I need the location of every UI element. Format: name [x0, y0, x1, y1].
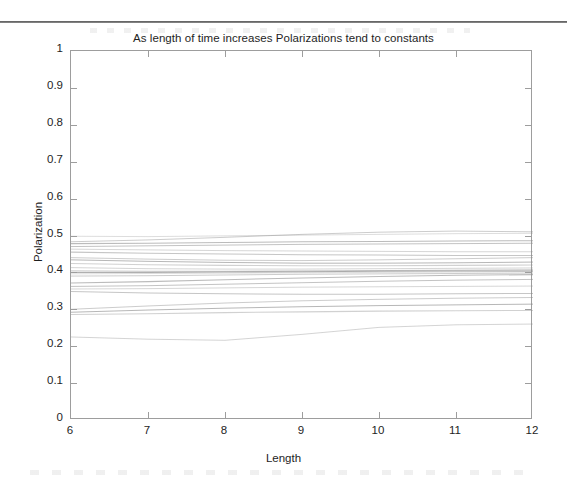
x-tick-top-11: [456, 51, 457, 57]
y-tick-right-0.4: [525, 272, 531, 273]
data-line: [71, 292, 533, 295]
x-tick-bottom-10: [379, 412, 380, 418]
x-tick-label-11: 11: [435, 424, 475, 436]
y-tick-label-0.9: 0.9: [18, 79, 63, 91]
y-tick-left-0.1: [71, 383, 77, 384]
data-line: [71, 279, 533, 286]
y-tick-left-0.8: [71, 125, 77, 126]
chart-figure: As length of time increases Polarization…: [0, 22, 567, 480]
y-tick-right-0.8: [525, 125, 531, 126]
y-tick-right-0.5: [525, 236, 531, 237]
y-tick-label-0.4: 0.4: [18, 263, 63, 275]
y-tick-left-0.5: [71, 236, 77, 237]
x-tick-bottom-9: [302, 412, 303, 418]
data-line: [71, 233, 533, 236]
y-tick-left-0.9: [71, 88, 77, 89]
y-tick-label-0.2: 0.2: [18, 337, 63, 349]
x-tick-label-7: 7: [127, 424, 167, 436]
x-tick-top-8: [225, 51, 226, 57]
y-tick-label-0.8: 0.8: [18, 116, 63, 128]
x-tick-label-10: 10: [358, 424, 398, 436]
data-line: [71, 249, 533, 252]
x-tick-label-9: 9: [281, 424, 321, 436]
y-tick-left-0.3: [71, 309, 77, 310]
y-tick-right-0.3: [525, 309, 531, 310]
y-tick-label-0: 0: [18, 411, 63, 423]
y-tick-label-0.1: 0.1: [18, 374, 63, 386]
y-tick-label-0.3: 0.3: [18, 300, 63, 312]
y-tick-label-0.5: 0.5: [18, 227, 63, 239]
data-line: [71, 264, 533, 266]
data-line: [71, 252, 533, 255]
y-tick-left-0.2: [71, 346, 77, 347]
x-tick-top-7: [148, 51, 149, 57]
y-tick-label-1: 1: [18, 42, 63, 54]
data-line: [71, 310, 533, 314]
y-tick-left-0.6: [71, 199, 77, 200]
data-line: [71, 258, 533, 261]
y-tick-left-0.7: [71, 162, 77, 163]
y-tick-left-0.4: [71, 272, 77, 273]
x-tick-bottom-7: [148, 412, 149, 418]
y-tick-label-0.6: 0.6: [18, 190, 63, 202]
data-line: [71, 268, 533, 269]
y-tick-right-0.7: [525, 162, 531, 163]
x-axis-label: Length: [0, 452, 567, 464]
data-line: [71, 241, 533, 244]
chart-title: As length of time increases Polarization…: [0, 32, 567, 44]
plot-area: [70, 50, 532, 419]
x-tick-label-6: 6: [50, 424, 90, 436]
y-tick-right-0.1: [525, 383, 531, 384]
data-lines-group: [71, 51, 533, 420]
x-tick-top-9: [302, 51, 303, 57]
y-tick-right-0.9: [525, 88, 531, 89]
y-tick-right-0.2: [525, 346, 531, 347]
data-line: [71, 324, 533, 340]
x-tick-label-8: 8: [204, 424, 244, 436]
data-line: [71, 297, 533, 309]
y-tick-right-0.6: [525, 199, 531, 200]
x-tick-bottom-11: [456, 412, 457, 418]
x-tick-top-10: [379, 51, 380, 57]
y-tick-label-0.7: 0.7: [18, 153, 63, 165]
x-tick-label-12: 12: [512, 424, 552, 436]
data-line: [71, 286, 533, 289]
x-tick-bottom-8: [225, 412, 226, 418]
